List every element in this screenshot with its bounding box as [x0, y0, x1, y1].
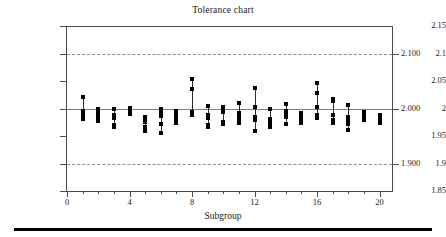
x-axis-label: 4	[127, 197, 131, 207]
y-tick-left	[60, 26, 67, 27]
y-axis-label-right: 1.900	[401, 158, 420, 168]
data-point	[346, 122, 350, 126]
data-point	[346, 103, 350, 107]
data-point	[81, 95, 85, 99]
y-axis-label-right: 2.100	[401, 48, 420, 58]
x-axis-label: 0	[65, 197, 69, 207]
data-point	[190, 77, 194, 81]
subgroup-stem	[255, 88, 256, 131]
data-point	[221, 122, 225, 126]
data-point	[128, 112, 132, 116]
data-point	[315, 105, 319, 109]
plot-area	[67, 26, 392, 191]
x-tick	[333, 191, 334, 194]
data-point	[253, 86, 257, 90]
y-axis-label-left: 2.05	[388, 75, 446, 85]
data-point	[190, 87, 194, 91]
plot-frame-bottom	[66, 191, 393, 192]
data-point	[206, 116, 210, 120]
tolerance-chart-figure: Tolerance chart Diameter Subgroup 1.851.…	[0, 0, 446, 237]
y-axis-label-left: 1.85	[388, 185, 446, 195]
data-point	[159, 131, 163, 135]
y-tick-left	[60, 164, 67, 165]
y-tick-right	[392, 109, 399, 110]
y-tick-right	[392, 54, 399, 55]
data-point	[237, 101, 241, 105]
chart-title: Tolerance chart	[0, 5, 446, 15]
gridline-1.900	[67, 164, 392, 165]
data-point	[284, 122, 288, 126]
y-tick-left	[60, 81, 67, 82]
y-axis-label-left: 1.95	[388, 130, 446, 140]
x-tick	[270, 191, 271, 194]
data-point	[81, 117, 85, 121]
data-point	[159, 122, 163, 126]
data-point	[362, 118, 366, 122]
x-tick	[176, 191, 177, 194]
data-point	[253, 118, 257, 122]
x-tick	[348, 191, 349, 194]
data-point	[315, 116, 319, 120]
x-tick	[161, 191, 162, 194]
x-tick	[98, 191, 99, 194]
data-point	[206, 104, 210, 108]
horizontal-rule	[14, 228, 432, 231]
data-point	[112, 107, 116, 111]
data-point	[284, 102, 288, 106]
data-point	[331, 99, 335, 103]
x-tick	[301, 191, 302, 194]
data-point	[96, 119, 100, 123]
y-axis-label-right: 2.000	[401, 103, 420, 113]
data-point	[237, 121, 241, 125]
data-point	[253, 129, 257, 133]
data-point	[206, 125, 210, 129]
data-point	[159, 114, 163, 118]
data-point	[253, 105, 257, 109]
data-point	[315, 91, 319, 95]
x-tick	[114, 191, 115, 194]
x-axis-label: 8	[190, 197, 194, 207]
data-point	[346, 128, 350, 132]
data-point	[268, 125, 272, 129]
y-axis-label-left: 2.15	[388, 20, 446, 30]
data-point	[268, 107, 272, 111]
data-point	[143, 129, 147, 133]
x-tick	[145, 191, 146, 194]
data-point	[159, 110, 163, 114]
y-tick-left	[60, 191, 67, 192]
x-tick	[83, 191, 84, 194]
data-point	[315, 81, 319, 85]
x-axis-label: 20	[375, 197, 384, 207]
x-axis-label: 16	[313, 197, 322, 207]
data-point	[378, 121, 382, 125]
data-point	[190, 113, 194, 117]
data-point	[346, 118, 350, 122]
data-point	[331, 113, 335, 117]
data-point	[112, 125, 116, 129]
x-axis-label: 12	[250, 197, 259, 207]
data-point	[174, 121, 178, 125]
y-tick-left	[60, 54, 67, 55]
x-tick	[364, 191, 365, 194]
x-tick	[208, 191, 209, 194]
data-point	[112, 116, 116, 120]
gridline-2.100	[67, 54, 392, 55]
x-axis-title: Subgroup	[0, 211, 446, 221]
x-tick	[223, 191, 224, 194]
data-point	[143, 120, 147, 124]
x-tick	[286, 191, 287, 194]
data-point	[284, 115, 288, 119]
data-point	[331, 121, 335, 125]
y-tick-left	[60, 109, 67, 110]
data-point	[299, 121, 303, 125]
data-point	[221, 110, 225, 114]
y-tick-right	[392, 164, 399, 165]
x-tick	[239, 191, 240, 194]
y-tick-left	[60, 136, 67, 137]
